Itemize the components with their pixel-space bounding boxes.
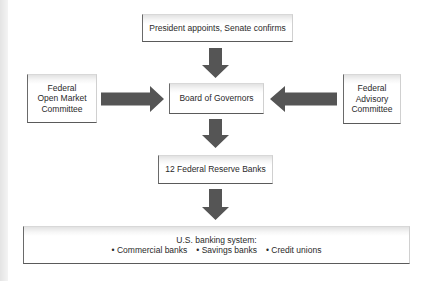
advisory-label: Federal Advisory Committee <box>351 83 392 115</box>
arrow-down-icon <box>202 48 230 78</box>
banking-system-label: U.S. banking system: <box>176 235 256 246</box>
arrow-right-icon <box>101 86 164 112</box>
page-edge-strip <box>0 0 8 281</box>
reserve-banks-label: 12 Federal Reserve Banks <box>165 164 266 175</box>
advisory-box: Federal Advisory Committee <box>343 74 401 124</box>
board-label: Board of Governors <box>179 93 253 104</box>
board-box: Board of Governors <box>169 83 264 114</box>
banking-system-box: U.S. banking system: Commercial banks Sa… <box>23 226 410 264</box>
arrow-down-icon <box>202 119 230 148</box>
banking-system-content: U.S. banking system: Commercial banks Sa… <box>112 235 322 256</box>
fomc-box: Federal Open Market Committee <box>27 74 97 123</box>
arrow-down-icon <box>202 189 230 220</box>
bullet-commercial-banks: Commercial banks <box>112 245 188 256</box>
banking-system-list: Commercial banks Savings banks Credit un… <box>112 245 322 256</box>
president-box: President appoints, Senate confirms <box>142 14 293 42</box>
president-label: President appoints, Senate confirms <box>149 23 286 34</box>
bullet-credit-unions: Credit unions <box>266 245 321 256</box>
bullet-savings-banks: Savings banks <box>196 245 257 256</box>
arrow-left-icon <box>270 86 337 112</box>
fomc-label: Federal Open Market Committee <box>37 83 86 115</box>
reserve-banks-box: 12 Federal Reserve Banks <box>158 155 273 184</box>
